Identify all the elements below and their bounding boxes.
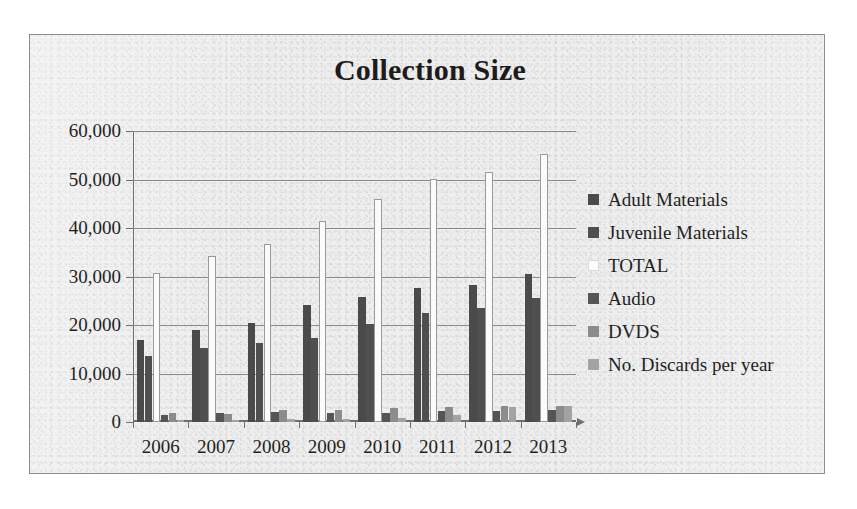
bar [279, 410, 287, 422]
bar [287, 419, 295, 422]
legend-item-label: DVDS [608, 321, 660, 343]
legend-item-label: No. Discards per year [608, 354, 774, 376]
screenshot-root: Collection Size 010,00020,00030,00040,00… [0, 0, 857, 509]
bar [256, 343, 264, 422]
y-axis-tick [126, 374, 133, 375]
legend-swatch-icon [588, 194, 599, 205]
legend-swatch-icon [588, 227, 599, 238]
x-axis-tick [355, 422, 356, 428]
bar [382, 413, 390, 422]
chart-title: Collection Size [205, 53, 655, 87]
legend-item-label: Audio [608, 288, 656, 310]
x-axis-tick [299, 422, 300, 428]
chart-legend: Adult MaterialsJuvenile MaterialsTOTALAu… [588, 183, 823, 381]
x-axis-tick [576, 422, 577, 428]
y-axis-tick [126, 131, 133, 132]
bar [493, 411, 501, 422]
gridline [133, 131, 576, 132]
bar [422, 313, 430, 422]
legend-swatch-icon [588, 260, 599, 271]
bar [390, 408, 398, 422]
bar [430, 179, 438, 422]
bar [445, 407, 453, 422]
bar [398, 418, 406, 422]
y-axis-label: 60,000 [69, 120, 121, 142]
x-axis-tick [244, 422, 245, 428]
legend-item[interactable]: TOTAL [588, 249, 823, 282]
x-axis-label: 2012 [474, 436, 512, 458]
bar [335, 410, 343, 422]
legend-swatch-icon [588, 293, 599, 304]
bar [414, 288, 422, 422]
legend-item[interactable]: DVDS [588, 315, 823, 348]
bar [192, 330, 200, 422]
gridline [133, 325, 576, 326]
bar [501, 406, 509, 422]
bar [177, 420, 185, 422]
x-axis-label: 2008 [252, 436, 290, 458]
bar [303, 305, 311, 422]
bar [453, 415, 461, 422]
legend-item[interactable]: Audio [588, 282, 823, 315]
legend-item-label: TOTAL [608, 255, 668, 277]
gridline [133, 277, 576, 278]
bar [311, 338, 319, 422]
chart-frame: Collection Size 010,00020,00030,00040,00… [29, 34, 825, 474]
y-axis-label: 50,000 [69, 169, 121, 191]
gridline [133, 180, 576, 181]
bar [216, 413, 224, 422]
y-axis-label: 30,000 [69, 266, 121, 288]
x-axis-tick [465, 422, 466, 428]
bar [208, 256, 216, 422]
bar [319, 221, 327, 422]
bar [137, 340, 145, 422]
bar [264, 244, 272, 422]
legend-item-label: Juvenile Materials [608, 222, 748, 244]
bar [200, 348, 208, 422]
y-axis-label: 40,000 [69, 217, 121, 239]
bar [509, 407, 517, 422]
bar [564, 406, 572, 422]
y-axis-tick [126, 325, 133, 326]
y-axis-tick [126, 228, 133, 229]
y-axis-label: 10,000 [69, 363, 121, 385]
x-axis-tick [521, 422, 522, 428]
legend-item[interactable]: Juvenile Materials [588, 216, 823, 249]
y-axis-tick [126, 180, 133, 181]
y-axis-label: 0 [112, 411, 122, 433]
x-axis-label: 2011 [419, 436, 456, 458]
bar [540, 154, 548, 422]
bar [548, 410, 556, 422]
bar [248, 323, 256, 422]
bar [358, 297, 366, 422]
bar [532, 298, 540, 422]
bar [477, 308, 485, 422]
bar [224, 414, 232, 422]
bar [271, 412, 279, 422]
x-axis-arrow-icon [577, 418, 585, 426]
legend-item[interactable]: Adult Materials [588, 183, 823, 216]
bar [556, 406, 564, 422]
y-axis-label: 20,000 [69, 314, 121, 336]
bar [525, 274, 533, 422]
legend-item-label: Adult Materials [608, 189, 728, 211]
bar [438, 411, 446, 422]
legend-item[interactable]: No. Discards per year [588, 348, 823, 381]
y-axis-tick [126, 277, 133, 278]
x-axis-tick [188, 422, 189, 428]
gridline [133, 228, 576, 229]
bar [485, 172, 493, 422]
bar [366, 324, 374, 422]
x-axis-tick [410, 422, 411, 428]
x-axis-label: 2006 [142, 436, 180, 458]
bar [153, 273, 161, 422]
x-axis-label: 2013 [529, 436, 567, 458]
bar [145, 356, 153, 422]
x-axis-label: 2010 [363, 436, 401, 458]
x-axis-tick [133, 422, 134, 428]
legend-swatch-icon [588, 359, 599, 370]
y-axis-tick [126, 422, 133, 423]
bar [161, 415, 169, 422]
bar [469, 285, 477, 422]
bar [169, 413, 177, 422]
